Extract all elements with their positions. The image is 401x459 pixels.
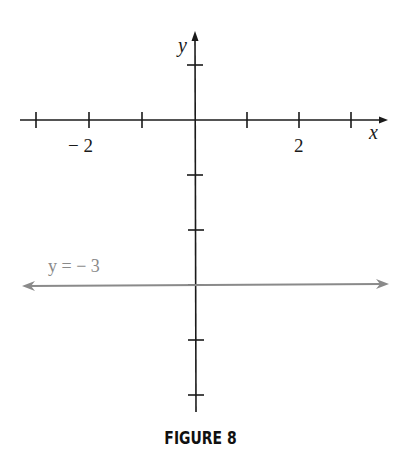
figure-caption: FIGURE 8 <box>36 428 365 448</box>
x-axis-arrow-icon <box>379 117 388 124</box>
line-y-equals-neg3: y = − 3 <box>22 256 389 291</box>
x-axis-label: x <box>368 121 378 143</box>
tick-label-neg2: − 2 <box>68 135 93 156</box>
y-axis: y <box>176 31 204 412</box>
y-axis-label: y <box>176 34 187 57</box>
line-equation-label: y = − 3 <box>48 256 100 276</box>
tick-label-pos2: 2 <box>294 135 304 156</box>
y-axis-arrow-icon <box>192 31 199 41</box>
x-axis: x − 2 2 <box>20 112 388 156</box>
coordinate-plane: x − 2 2 y y = − 3 <box>0 0 401 459</box>
